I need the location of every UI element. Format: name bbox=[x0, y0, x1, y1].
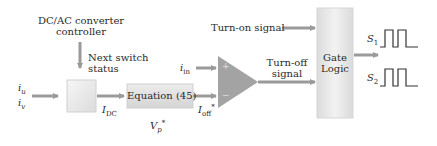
s2-label: S2 bbox=[367, 72, 378, 83]
gate-logic-line1: Gate bbox=[317, 52, 353, 63]
turn-off-label: Turn-off signal bbox=[262, 57, 312, 79]
vp-label: Vp* bbox=[150, 120, 165, 131]
ioff-label: Ioff* bbox=[198, 104, 215, 115]
turn-off-line1: Turn-off bbox=[262, 57, 312, 68]
switch-status-box bbox=[67, 80, 96, 112]
comparator-plus: + bbox=[222, 61, 230, 72]
controller-label-line2: controller bbox=[36, 26, 126, 37]
controller-label-line1: DC/AC converter bbox=[36, 15, 126, 26]
comparator-minus: − bbox=[222, 90, 230, 101]
s1-label: S1 bbox=[367, 33, 378, 44]
gate-logic-line2: Logic bbox=[317, 63, 353, 74]
controller-label: DC/AC converter controller bbox=[36, 15, 126, 37]
iu-label: iu bbox=[18, 82, 26, 93]
turn-off-line2: signal bbox=[262, 68, 312, 79]
turn-on-label: Turn-on signal bbox=[211, 22, 285, 33]
s2-waveform bbox=[380, 69, 418, 86]
equation-label: Equation (45) bbox=[127, 90, 193, 101]
iin-label: iin bbox=[180, 62, 190, 73]
next-switch-line2: status bbox=[88, 63, 148, 74]
iv-label: iv bbox=[18, 97, 25, 108]
gate-logic-label: Gate Logic bbox=[317, 52, 353, 74]
next-switch-line1: Next switch bbox=[88, 52, 148, 63]
next-switch-label: Next switch status bbox=[88, 52, 148, 74]
idc-label: IDC bbox=[102, 104, 117, 115]
s1-waveform bbox=[380, 30, 418, 47]
